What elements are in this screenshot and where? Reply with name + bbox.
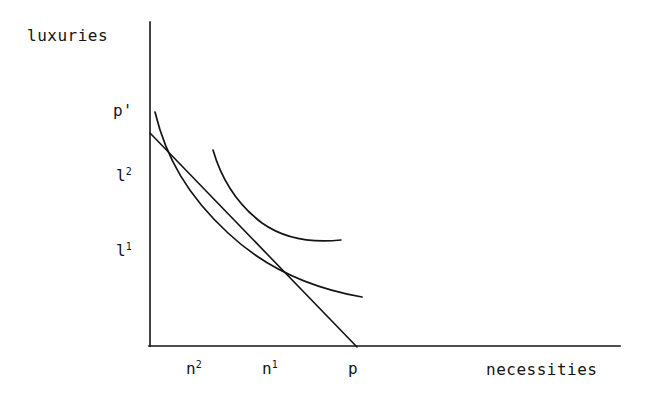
x-tick-label-n1: n1 (262, 359, 278, 378)
indifference-curve-diagram (0, 0, 656, 406)
x-tick-n1-sup: 1 (272, 359, 278, 370)
x-tick-n1-base: n (262, 359, 272, 378)
y-tick-label-l2: l2 (116, 166, 132, 185)
y-axis-title: luxuries (27, 26, 108, 45)
x-tick-label-n2: n2 (186, 359, 202, 378)
x-tick-label-p: p (348, 359, 358, 378)
y-tick-l1-base: l (116, 241, 126, 260)
x-tick-n2-base: n (186, 359, 196, 378)
y-tick-label-p-prime: p' (113, 101, 132, 120)
x-tick-n2-sup: 2 (196, 359, 202, 370)
x-axis-title: necessities (486, 360, 597, 379)
y-tick-l2-sup: 2 (126, 166, 132, 177)
y-tick-l1-sup: 1 (126, 241, 132, 252)
figure-background (0, 0, 656, 406)
y-tick-label-l1: l1 (116, 241, 132, 260)
y-tick-l2-base: l (116, 166, 126, 185)
